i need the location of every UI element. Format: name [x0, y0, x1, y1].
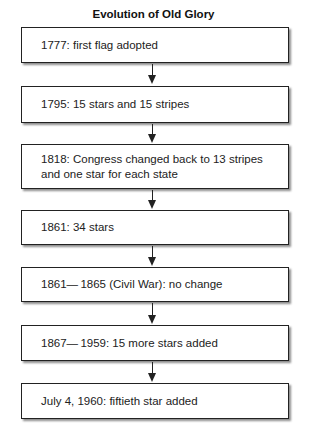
flow-step-1795: 1795: 15 stars and 15 stripes	[21, 86, 289, 123]
step-text: 1777: first flag adopted	[41, 38, 158, 53]
flow-step-civil-war: 1861— 1865 (Civil War): no change	[21, 267, 289, 302]
arrow-down-icon	[152, 303, 154, 325]
step-text: July 4, 1960: fiftieth star added	[41, 394, 198, 409]
arrow-down-icon	[152, 64, 154, 85]
arrow-down-icon	[152, 362, 154, 383]
step-text: 1795: 15 stars and 15 stripes	[41, 97, 189, 112]
step-text: 1818: Congress changed back to 13 stripe…	[41, 152, 268, 182]
flow-step-1818: 1818: Congress changed back to 13 stripe…	[21, 144, 289, 189]
arrow-down-icon	[152, 124, 154, 144]
flow-step-1861: 1861: 34 stars	[21, 210, 289, 245]
arrow-down-icon	[152, 246, 154, 267]
flow-step-1777: 1777: first flag adopted	[21, 27, 289, 63]
step-text: 1861: 34 stars	[41, 220, 114, 235]
flow-step-1960: July 4, 1960: fiftieth star added	[21, 383, 289, 419]
step-text: 1867— 1959: 15 more stars added	[41, 336, 218, 351]
arrow-down-icon	[152, 190, 154, 210]
step-text: 1861— 1865 (Civil War): no change	[41, 277, 223, 292]
diagram-title: Evolution of Old Glory	[0, 8, 307, 20]
flow-step-1867-1959: 1867— 1959: 15 more stars added	[21, 325, 289, 361]
